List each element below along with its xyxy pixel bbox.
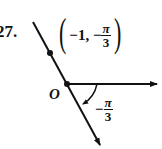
origin-dot	[64, 81, 70, 87]
angle-fraction: π 3	[104, 96, 113, 123]
point-dot	[47, 50, 53, 56]
theta-fraction: π 3	[101, 22, 110, 49]
point-label: ( −1, − π 3 )	[56, 17, 124, 53]
angle-label: − π 3	[95, 96, 113, 123]
origin-label: O	[49, 86, 60, 103]
